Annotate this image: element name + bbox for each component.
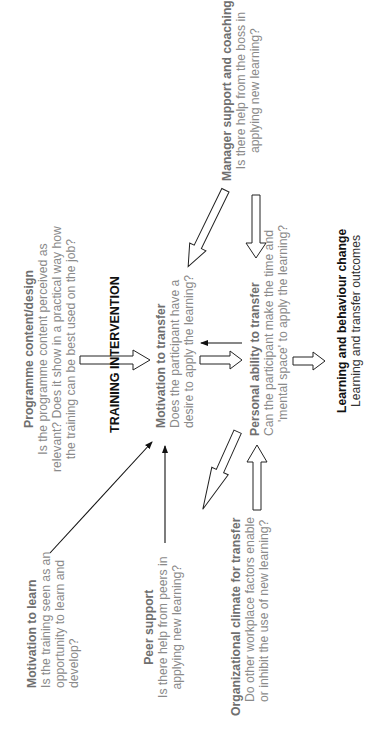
node-title: Manager support and coaching <box>220 0 234 181</box>
node-title: Programme content/design <box>22 226 36 472</box>
node-text: opportunity to learn and <box>53 552 67 688</box>
node-text: Is the training seen as an <box>39 552 53 688</box>
node-text: relevant? Does it show in a practical wa… <box>50 226 64 472</box>
node-text: 'mental space' to apply the learning? <box>276 225 290 436</box>
node-text: or inhibit the use of new learning? <box>257 517 271 716</box>
node-peer-support: Peer support Is there help from peers in… <box>142 556 184 698</box>
node-text: Is there help from peers in <box>156 556 170 698</box>
node-title: Motivation to learn <box>25 552 39 688</box>
node-text: Is there help from the boss in <box>234 0 248 181</box>
node-learning-outcome: Learning and behaviour change Learning a… <box>335 229 363 413</box>
node-text: desire to apply the learning? <box>182 275 196 428</box>
node-text: Do other workplace factors enable <box>243 517 257 716</box>
training-intervention-heading: TRAINING INTERVENTION <box>108 276 122 433</box>
arrow-personal-to-outcome <box>293 352 325 370</box>
node-text: Can the participant make the time and <box>262 225 276 436</box>
node-text: Does the participant have a <box>168 275 182 428</box>
node-title: Learning and behaviour change <box>335 229 349 413</box>
node-title: Personal ability to transfer <box>248 225 262 436</box>
node-motivation-to-transfer: Motivation to transfer Does the particip… <box>154 275 196 428</box>
node-text: Is the programme content perceived as <box>36 226 50 472</box>
node-motivation-to-learn: Motivation to learn Is the training seen… <box>25 552 81 688</box>
node-programme-content: Programme content/design Is the programm… <box>22 226 78 472</box>
node-text: applying new learning? <box>170 556 184 698</box>
arrow-org-climate-to-personal <box>247 445 267 510</box>
node-title: Peer support <box>142 556 156 698</box>
node-text: the training can be best used on the job… <box>64 226 78 472</box>
node-text: applying new learning? <box>248 0 262 181</box>
node-personal-ability: Personal ability to transfer Can the par… <box>248 225 290 436</box>
node-manager-support: Manager support and coaching Is there he… <box>220 0 262 181</box>
node-text: Learning and transfer outcomes <box>349 229 363 413</box>
arrow-manager-to-motivation <box>180 186 233 270</box>
arrow-motivation-to-personal <box>200 351 242 369</box>
node-title: Organizational climate for transfer <box>229 517 243 716</box>
node-organizational-climate: Organizational climate for transfer Do o… <box>229 517 271 716</box>
node-title: Motivation to transfer <box>154 275 168 428</box>
arrow-org-climate-to-motivation <box>195 428 246 513</box>
node-text: develop? <box>67 552 81 688</box>
